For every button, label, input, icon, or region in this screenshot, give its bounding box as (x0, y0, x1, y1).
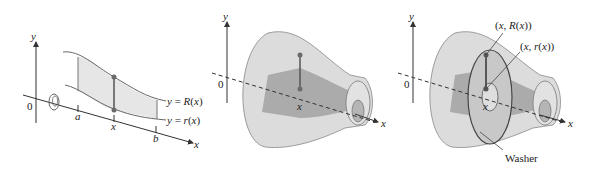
shaded-region (78, 57, 157, 119)
x-axis-label: x (193, 138, 199, 150)
outer-point-label: (x, R(x)) (495, 19, 532, 32)
origin-label: 0 (404, 78, 410, 90)
panel-solid: y 0 x x (212, 10, 386, 148)
tick-a-label: a (75, 110, 81, 122)
rotation-arrow-icon (49, 94, 59, 110)
tick-b-label: b (153, 132, 159, 144)
x-axis-label: x (380, 117, 386, 129)
outer-point (112, 75, 117, 80)
inner-point (298, 87, 303, 92)
washer-method-figure: y x 0 a x b y = R(x) y = r(x) y 0 (0, 0, 591, 173)
y-axis-label: y (30, 30, 36, 42)
origin-label: 0 (218, 78, 224, 90)
x-axis-label: x (567, 117, 573, 129)
y-axis-label: y (408, 10, 414, 22)
washer-label: Washer (505, 152, 538, 164)
tick-x-label: x (110, 120, 116, 132)
lower-curve-label: y = r(x) (166, 114, 200, 127)
inner-point-label: (x, r(x)) (520, 40, 555, 53)
upper-curve-label: y = R(x) (166, 95, 203, 108)
y-axis-label: y (222, 10, 228, 22)
outer-point (298, 53, 303, 58)
x-label: x (296, 100, 302, 112)
panel-region: y x 0 a x b y = R(x) y = r(x) (23, 30, 203, 150)
panel-washer: y 0 x x (x, R(x)) (x, r(x)) Washer (398, 10, 573, 164)
inner-point (112, 108, 117, 113)
x-label: x (482, 100, 488, 112)
origin-label: 0 (27, 100, 33, 112)
